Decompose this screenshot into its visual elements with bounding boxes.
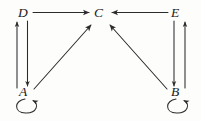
self-loop-B — [168, 99, 188, 113]
graph-figure: D C E A B — [0, 0, 201, 121]
node-label-A: A — [19, 85, 27, 99]
edge-A-to-C — [34, 25, 91, 89]
node-label-D: D — [18, 6, 28, 20]
self-loop-A — [17, 99, 37, 113]
node-label-E: E — [171, 6, 179, 20]
node-label-C: C — [94, 6, 103, 20]
node-label-B: B — [171, 85, 179, 99]
edge-B-to-C — [110, 25, 167, 89]
